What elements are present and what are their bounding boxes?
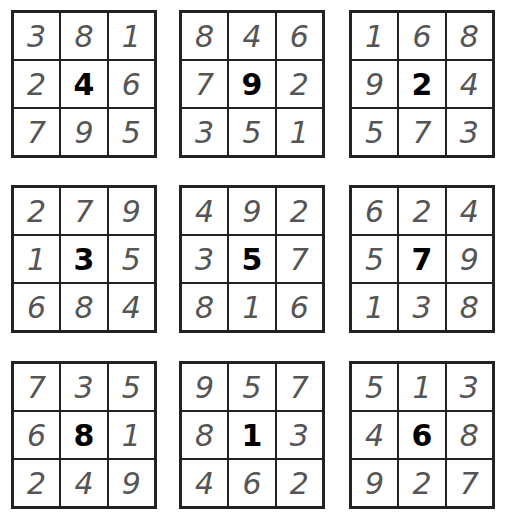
cell: 4 bbox=[181, 459, 228, 507]
cell: 8 bbox=[181, 411, 228, 459]
cell: 7 bbox=[276, 363, 323, 411]
cell: 6 bbox=[108, 60, 155, 108]
cell: 7 bbox=[398, 108, 445, 156]
cell: 8 bbox=[446, 283, 493, 331]
cell: 8 bbox=[60, 12, 107, 60]
center-cell: 3 bbox=[60, 235, 107, 283]
cell: 6 bbox=[351, 187, 398, 235]
cell: 8 bbox=[181, 12, 228, 60]
cell: 8 bbox=[181, 283, 228, 331]
cell: 5 bbox=[228, 108, 275, 156]
cell: 6 bbox=[228, 459, 275, 507]
cell: 2 bbox=[276, 187, 323, 235]
cell: 7 bbox=[13, 363, 60, 411]
cell: 7 bbox=[13, 108, 60, 156]
grid-2: 8 4 6 7 9 2 3 5 1 bbox=[179, 10, 325, 158]
cell: 4 bbox=[60, 459, 107, 507]
cell: 1 bbox=[108, 411, 155, 459]
center-cell: 2 bbox=[398, 60, 445, 108]
grid-3: 1 6 8 9 2 4 5 7 3 bbox=[349, 10, 495, 158]
cell: 4 bbox=[446, 187, 493, 235]
cell: 1 bbox=[228, 283, 275, 331]
cell: 4 bbox=[446, 60, 493, 108]
cell: 1 bbox=[351, 283, 398, 331]
cell: 1 bbox=[351, 12, 398, 60]
cell: 3 bbox=[181, 108, 228, 156]
center-cell: 4 bbox=[60, 60, 107, 108]
cell: 2 bbox=[398, 459, 445, 507]
grid-7: 7 3 5 6 8 1 2 4 9 bbox=[11, 361, 157, 509]
cell: 4 bbox=[181, 187, 228, 235]
cell: 9 bbox=[181, 363, 228, 411]
cell: 5 bbox=[228, 363, 275, 411]
center-cell: 1 bbox=[228, 411, 275, 459]
cell: 7 bbox=[60, 187, 107, 235]
cell: 5 bbox=[108, 363, 155, 411]
cell: 2 bbox=[276, 60, 323, 108]
cell: 9 bbox=[60, 108, 107, 156]
cell: 2 bbox=[276, 459, 323, 507]
cell: 5 bbox=[351, 108, 398, 156]
cell: 1 bbox=[13, 235, 60, 283]
cell: 9 bbox=[446, 235, 493, 283]
cell: 7 bbox=[446, 459, 493, 507]
cell: 3 bbox=[60, 363, 107, 411]
cell: 6 bbox=[13, 283, 60, 331]
grid-5: 4 9 2 3 5 7 8 1 6 bbox=[179, 185, 325, 333]
cell: 2 bbox=[13, 60, 60, 108]
center-cell: 6 bbox=[398, 411, 445, 459]
cell: 5 bbox=[351, 363, 398, 411]
cell: 9 bbox=[228, 187, 275, 235]
cell: 9 bbox=[351, 459, 398, 507]
cell: 9 bbox=[351, 60, 398, 108]
cell: 4 bbox=[228, 12, 275, 60]
cell: 3 bbox=[446, 363, 493, 411]
cell: 6 bbox=[276, 12, 323, 60]
cell: 3 bbox=[276, 411, 323, 459]
cell: 4 bbox=[351, 411, 398, 459]
cell: 3 bbox=[181, 235, 228, 283]
cell: 5 bbox=[108, 108, 155, 156]
cell: 2 bbox=[398, 187, 445, 235]
cell: 3 bbox=[446, 108, 493, 156]
center-cell: 9 bbox=[228, 60, 275, 108]
grid-9: 5 1 3 4 6 8 9 2 7 bbox=[349, 361, 495, 509]
cell: 6 bbox=[276, 283, 323, 331]
cell: 8 bbox=[60, 283, 107, 331]
cell: 7 bbox=[181, 60, 228, 108]
cell: 1 bbox=[398, 363, 445, 411]
cell: 8 bbox=[446, 12, 493, 60]
cell: 2 bbox=[13, 459, 60, 507]
cell: 9 bbox=[108, 187, 155, 235]
center-cell: 8 bbox=[60, 411, 107, 459]
cell: 2 bbox=[13, 187, 60, 235]
cell: 6 bbox=[398, 12, 445, 60]
cell: 6 bbox=[13, 411, 60, 459]
grid-4: 2 7 9 1 3 5 6 8 4 bbox=[11, 185, 157, 333]
cell: 1 bbox=[276, 108, 323, 156]
cell: 1 bbox=[108, 12, 155, 60]
grid-6: 6 2 4 5 7 9 1 3 8 bbox=[349, 185, 495, 333]
cell: 3 bbox=[13, 12, 60, 60]
cell: 5 bbox=[351, 235, 398, 283]
grid-1: 3 8 1 2 4 6 7 9 5 bbox=[11, 10, 157, 158]
cell: 9 bbox=[108, 459, 155, 507]
grid-8: 9 5 7 8 1 3 4 6 2 bbox=[179, 361, 325, 509]
cell: 3 bbox=[398, 283, 445, 331]
cell: 7 bbox=[276, 235, 323, 283]
cell: 4 bbox=[108, 283, 155, 331]
cell: 8 bbox=[446, 411, 493, 459]
cell: 5 bbox=[108, 235, 155, 283]
center-cell: 7 bbox=[398, 235, 445, 283]
center-cell: 5 bbox=[228, 235, 275, 283]
